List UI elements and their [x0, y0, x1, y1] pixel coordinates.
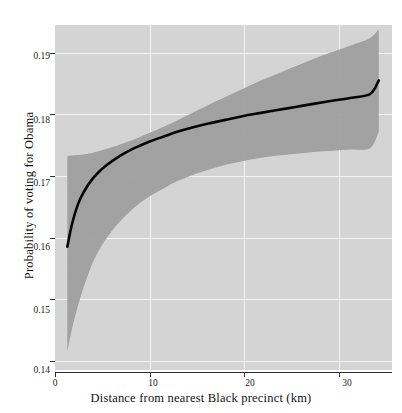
x-tick-label-0: 0	[53, 378, 58, 388]
y-tick-label-5: 0.19	[20, 51, 50, 61]
y-tick-label-0: 0.14	[20, 365, 50, 375]
x-tick-label-3: 30	[342, 378, 352, 388]
x-axis-title: Distance from nearest Black precinct (km…	[0, 391, 402, 406]
chart-figure: 0.14 0.15 0.16 0.17 0.18 0.19 0 10 20 30…	[0, 0, 402, 413]
x-tick-label-1: 10	[148, 378, 158, 388]
plot-canvas	[0, 0, 402, 413]
y-axis-title: Probability of voting for Obama	[22, 81, 37, 311]
x-tick-label-2: 20	[245, 378, 255, 388]
